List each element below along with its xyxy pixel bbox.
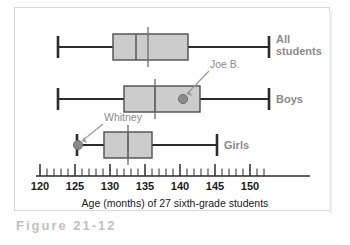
data-point-joe-b[interactable] (178, 94, 187, 103)
figure-caption: Figure 21-12 (16, 218, 117, 233)
x-tick-label-group: 120125130135140145150 (31, 180, 259, 192)
box-all-students (113, 34, 188, 60)
x-tick-label: 145 (206, 180, 224, 192)
category-label-all-students-line1: All (276, 33, 290, 45)
category-label-girls: Girls (224, 139, 249, 151)
x-axis (36, 164, 310, 176)
x-tick-label: 135 (136, 180, 154, 192)
x-tick-label: 140 (171, 180, 189, 192)
annotation-label-whitney: Whitney (104, 111, 143, 123)
boxplot-chart: 120125130135140145150 All students Boys … (0, 0, 350, 245)
box-boys (124, 86, 200, 112)
x-tick-label: 120 (31, 180, 49, 192)
category-label-boys: Boys (276, 93, 303, 105)
leader-line-whitney (82, 124, 103, 141)
axis-tick-group (40, 164, 264, 176)
figure-container: 120125130135140145150 All students Boys … (0, 0, 350, 245)
data-point-whitney[interactable] (73, 140, 82, 149)
x-tick-label: 150 (241, 180, 259, 192)
category-label-all-students-line2: students (276, 45, 322, 57)
x-tick-label: 130 (101, 180, 119, 192)
x-tick-label: 125 (66, 180, 84, 192)
box-series-boys (58, 79, 269, 119)
annotation-label-joe-b: Joe B. (210, 58, 240, 70)
axis-title: Age (months) of 27 sixth-grade students (82, 197, 269, 209)
